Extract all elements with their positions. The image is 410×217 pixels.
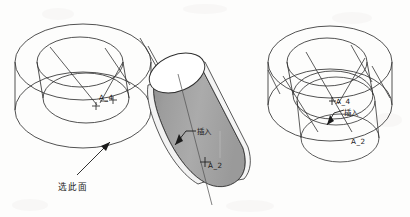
inner-top-ellipse (37, 37, 123, 87)
insert-leader-right (327, 110, 344, 125)
axis-label-a4-right: A_4 (336, 97, 351, 106)
axis-label-a2-right: A_2 (351, 137, 366, 146)
inner-bottom-ellipse (43, 73, 129, 123)
ring-chord-line-2 (105, 48, 130, 85)
left-assembly-view (15, 24, 170, 148)
outer-bottom-ellipse (15, 72, 151, 148)
r-insert-bottom-ellipse (301, 114, 379, 162)
r-outer-bottom-ellipse (268, 69, 392, 141)
diagram-canvas: A_4 插入 A_2 选此面 (0, 0, 410, 217)
axis-label-a4-left: A_4 (99, 93, 114, 102)
right-assembly-view (268, 26, 392, 162)
r-inner-top-ellipse (287, 38, 367, 86)
select-face-leader (77, 142, 110, 175)
technical-drawing: A_4 插入 A_2 选此面 (0, 0, 410, 217)
insert-label-right: 插入 (344, 108, 359, 117)
axis-label-a2-left: A_2 (208, 161, 223, 170)
insert-label-left: 插入 (197, 127, 212, 136)
select-face-label: 选此面 (58, 181, 88, 192)
r-insert-side-left (297, 101, 301, 138)
outer-top-ellipse (15, 24, 151, 100)
ring-axis-line (50, 47, 97, 105)
r-chord-line-3 (372, 66, 390, 98)
inserted-cylinder (143, 45, 250, 205)
